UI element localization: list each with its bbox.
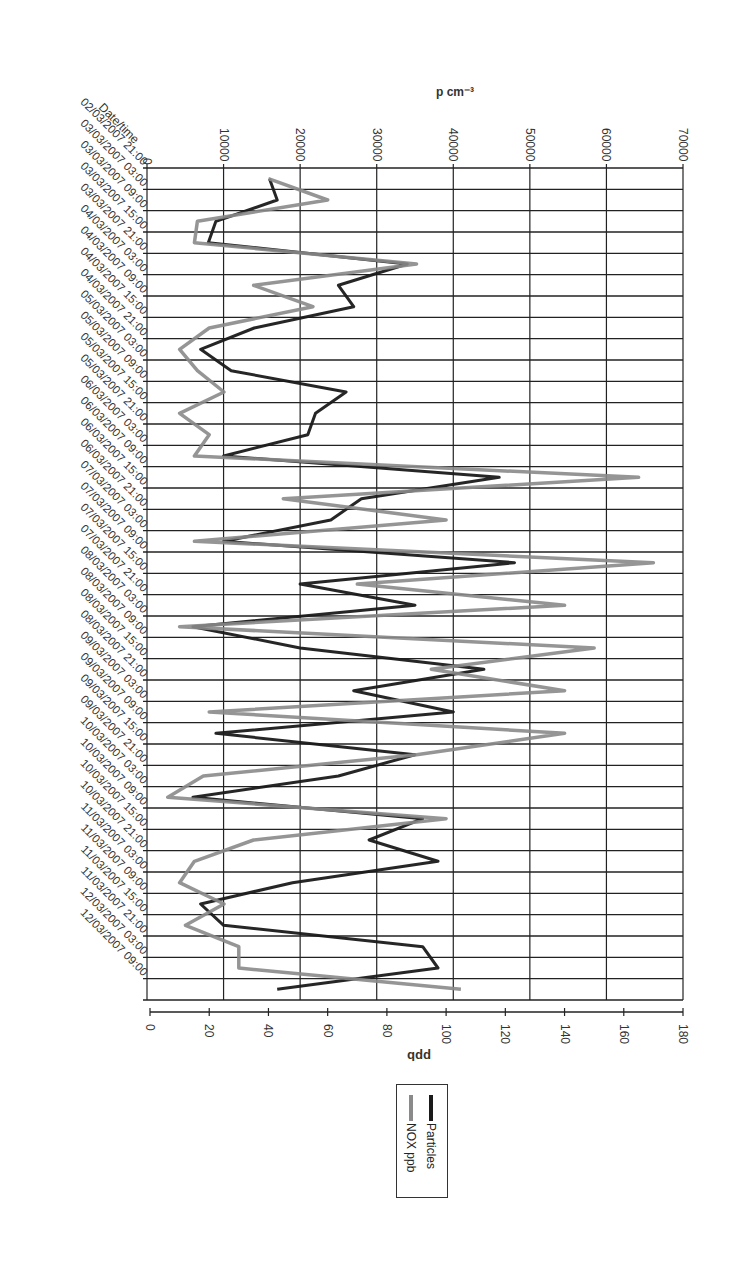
- left-axis-tick-label: 20000: [293, 128, 307, 162]
- legend: ParticlesNOX ppb: [396, 1084, 448, 1198]
- left-axis-tick-label: 30000: [370, 128, 384, 162]
- right-axis-tick-label: 0: [143, 1024, 157, 1031]
- left-axis-tick-label: 50000: [523, 128, 537, 162]
- series-particles: [193, 179, 515, 990]
- series-nox-ppb: [168, 179, 654, 990]
- data-series: [168, 179, 654, 990]
- legend-label: NOX ppb: [404, 1123, 418, 1173]
- right-axis-tick-label: 20: [202, 1024, 216, 1038]
- axes: [150, 1008, 683, 1016]
- right-axis-tick-label: 100: [439, 1024, 453, 1044]
- right-axis-tick-label: 60: [321, 1024, 335, 1038]
- right-axis-tick-label: 120: [498, 1024, 512, 1044]
- chart-canvas: 020406080100120140160180ppb0100002000030…: [0, 0, 730, 1261]
- gridlines: [143, 164, 683, 1000]
- left-axis-title: p cm⁻³: [436, 85, 474, 99]
- legend-label: Particles: [424, 1123, 438, 1169]
- left-axis-tick-label: 10000: [217, 128, 231, 162]
- right-axis-tick-label: 140: [558, 1024, 572, 1044]
- right-axis-tick-label: 180: [676, 1024, 690, 1044]
- left-axis-tick-label: 40000: [446, 128, 460, 162]
- left-axis-tick-label: 70000: [676, 128, 690, 162]
- left-axis-tick-label: 60000: [599, 128, 613, 162]
- right-axis-tick-label: 80: [380, 1024, 394, 1038]
- right-axis-tick-label: 160: [617, 1024, 631, 1044]
- legend-graphic: ParticlesNOX ppb: [397, 1085, 447, 1197]
- right-axis-title: ppb: [407, 1049, 431, 1064]
- right-axis-tick-label: 40: [261, 1024, 275, 1038]
